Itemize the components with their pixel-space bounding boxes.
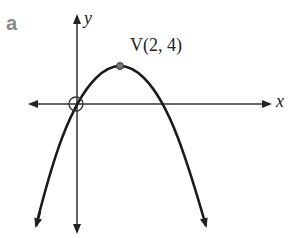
vertex-dot-icon [117,63,124,70]
parabola-graph [0,0,307,238]
parabola-curve [36,66,206,226]
